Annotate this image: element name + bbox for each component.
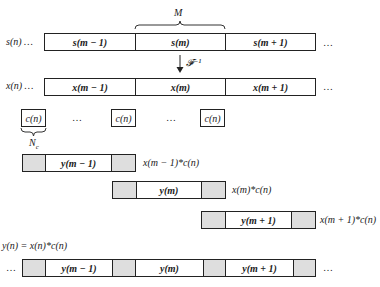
brace-nc-icon [21,128,46,136]
equation-label: y(n) = x(n)*c(n) [2,240,67,252]
overlap-cell [202,212,226,228]
overlap-cell [204,260,226,276]
cell-s-m+1: s(m + 1) [226,34,315,50]
brace-nc-label: Nc [29,137,39,153]
row-x-prefix: x(n) … [6,80,34,92]
code-box-1: c(n) [21,109,46,127]
cell-x-m+1: x(m + 1) [226,79,315,95]
row-x: x(m − 1) x(m) x(m + 1) [44,78,316,96]
conv-row-3: y(m + 1) [201,211,316,229]
conv-row-1: y(m − 1) [22,154,136,172]
conv-label-3: x(m + 1)*c(n) [320,214,376,226]
cell-final-y-m: y(m) [136,260,204,276]
conv-label-2: x(m)*c(n) [232,184,271,196]
conv-label-1: x(m − 1)*c(n) [143,157,199,169]
cell-y-m: y(m) [137,182,202,198]
overlap-cell [202,182,225,198]
brace-m-label: M [174,7,182,19]
cell-s-m: s(m) [136,34,226,50]
nc-main: N [29,137,36,148]
overlap-cell [113,182,137,198]
code-box-3: c(n) [200,109,225,127]
cell-s-m-1: s(m − 1) [45,34,136,50]
overlap-cell [112,155,135,171]
cell-x-m: x(m) [136,79,226,95]
row-s: s(m − 1) s(m) s(m + 1) [44,33,316,51]
cell-final-y-m+1: y(m + 1) [226,260,294,276]
row-s-suffix: … [323,37,333,49]
nc-sub: c [36,143,39,151]
code-box-2: c(n) [111,109,136,127]
row-x-suffix: … [323,81,333,93]
code-dots-1: … [72,112,82,124]
overlap-cell [23,155,46,171]
overlap-cell [294,260,315,276]
code-dots-2: … [166,112,176,124]
row-y-prefix: … [6,262,16,274]
cell-y-m+1: y(m + 1) [226,212,292,228]
overlap-cell [113,260,136,276]
brace-m-icon [135,21,225,29]
cell-final-y-m-1: y(m − 1) [46,260,113,276]
cell-y-m-1: y(m − 1) [46,155,112,171]
overlap-cell [23,260,46,276]
overlap-cell [292,212,315,228]
cell-x-m-1: x(m − 1) [45,79,136,95]
inverse-transform-label: 𝓕⁻¹ [186,57,201,69]
arrow-down-icon [177,67,184,73]
row-y: y(m − 1) y(m) y(m + 1) [22,259,316,277]
row-s-prefix: s(n) … [6,36,33,48]
conv-row-2: y(m) [112,181,226,199]
row-y-suffix: … [323,262,333,274]
